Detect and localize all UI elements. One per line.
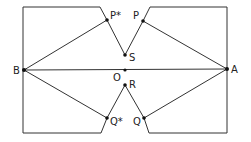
segment-B-Qstar xyxy=(24,70,107,118)
point-Qstar xyxy=(105,116,109,120)
geometry-diagram: B A O S R P P* Q Q* xyxy=(0,0,251,142)
label-Pstar: P* xyxy=(110,10,121,21)
label-O: O xyxy=(113,72,121,83)
label-P: P xyxy=(133,10,139,21)
segment-B-Pstar xyxy=(24,20,107,70)
label-Qstar: Q* xyxy=(110,116,123,127)
point-P xyxy=(141,19,145,23)
boundary-right xyxy=(149,7,227,133)
segment-A-P xyxy=(143,21,227,69)
point-Q xyxy=(142,116,146,120)
label-Q: Q xyxy=(133,116,141,127)
label-S: S xyxy=(129,52,135,63)
label-B: B xyxy=(13,65,20,76)
point-A xyxy=(225,67,229,71)
point-B xyxy=(22,68,26,72)
point-Pstar xyxy=(105,18,109,22)
label-A: A xyxy=(231,64,238,75)
label-R: R xyxy=(129,79,136,90)
point-O xyxy=(123,68,126,71)
segment-A-Q xyxy=(144,69,227,118)
point-R xyxy=(123,83,127,87)
point-S xyxy=(123,53,127,57)
